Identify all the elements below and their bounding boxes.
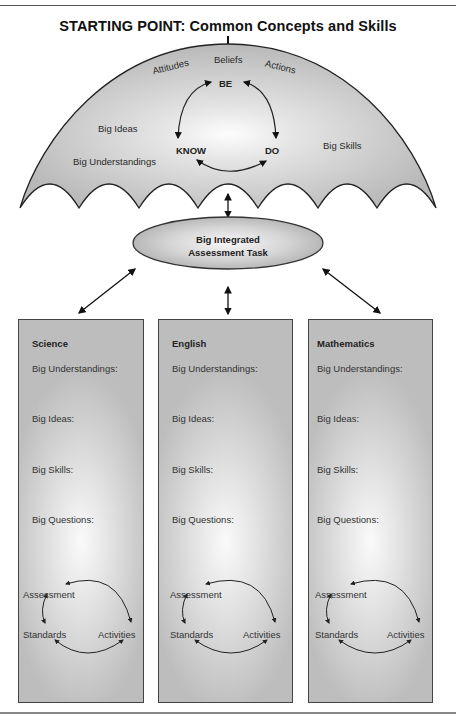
cycle-label-standards: Standards <box>315 629 358 640</box>
cycle-label-assessment: Assessment <box>315 589 367 600</box>
cycle-label-activities: Activities <box>98 629 135 640</box>
umbrella-canopy <box>20 44 436 208</box>
subject-box-english: English Big Understandings: Big Ideas: B… <box>158 319 293 703</box>
cycle-label-assessment: Assessment <box>170 589 222 600</box>
cycle-label-know: KNOW <box>176 145 206 156</box>
subject-box-mathematics: Mathematics Big Understandings: Big Idea… <box>308 319 433 703</box>
label-big-ideas: Big Ideas <box>98 123 138 134</box>
cycle-label-activities: Activities <box>243 629 280 640</box>
cycle-label-do: DO <box>265 145 279 156</box>
assessment-task-label: Big Integrated Assessment Task <box>148 233 308 259</box>
cycle-label-activities: Activities <box>387 629 424 640</box>
cycle-label-standards: Standards <box>170 629 213 640</box>
label-big-skills: Big Skills <box>323 140 362 151</box>
subject-box-science: Science Big Understandings: Big Ideas: B… <box>18 319 144 703</box>
cycle-label-assessment: Assessment <box>23 589 75 600</box>
cycle-arrows <box>309 320 434 704</box>
assessment-task-line2: Assessment Task <box>148 246 308 259</box>
umbrella-graphic <box>0 0 456 320</box>
assessment-task-line1: Big Integrated <box>148 233 308 246</box>
cycle-arrows <box>19 320 145 704</box>
arc-label-beliefs: Beliefs <box>214 54 243 65</box>
cycle-label-standards: Standards <box>23 629 66 640</box>
cycle-label-be: BE <box>219 78 232 89</box>
bottom-rule <box>0 712 456 714</box>
cycle-arrows <box>159 320 294 704</box>
label-big-understandings: Big Understandings <box>73 156 156 167</box>
